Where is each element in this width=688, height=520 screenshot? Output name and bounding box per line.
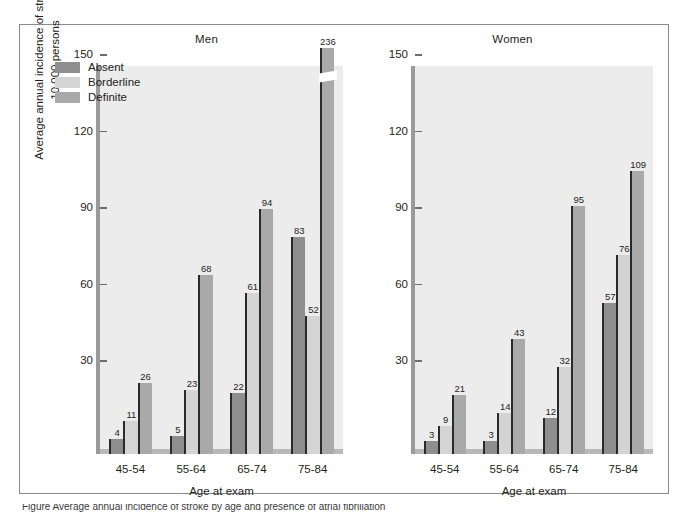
y-tick-60: 60 [80, 278, 100, 290]
panel-women: Women 306090120150 392131443123295577610… [355, 25, 670, 493]
figure-frame: Men Average annual incidence of stroke p… [19, 24, 669, 494]
bar-men-75-84-borderline: 52 [305, 316, 319, 454]
bar-men-65-74-borderline: 61 [245, 293, 259, 454]
bar-women-75-84-borderline: 76 [616, 255, 630, 454]
bar-value-label: 21 [454, 383, 465, 394]
x-axis-title-men: Age at exam [100, 485, 343, 497]
bar-value-label: 76 [619, 243, 630, 254]
bar-women-65-74-borderline: 32 [557, 367, 571, 454]
y-tick-label: 60 [80, 278, 93, 290]
y-tick-label: 120 [74, 125, 93, 137]
y-tick-150: 150 [389, 48, 415, 60]
panel-title-men: Men [20, 33, 355, 45]
y-tick-label: 90 [395, 201, 408, 213]
bar-value-label: 12 [545, 406, 556, 417]
y-tick-90: 90 [80, 201, 100, 213]
bar-value-label: 236 [320, 36, 336, 47]
bar-value-label: 83 [294, 225, 305, 236]
legend-item: Definite [55, 91, 140, 103]
y-tick-mark [415, 360, 422, 362]
figure-page: Men Average annual incidence of stroke p… [0, 0, 688, 520]
bar-women-65-74-absent: 12 [543, 418, 557, 454]
legend: AbsentBorderlineDefinite [55, 61, 140, 106]
legend-swatch-definite [55, 92, 80, 103]
bar-men-75-84-definite [320, 56, 334, 454]
x-group-label-45-54: 45-54 [430, 463, 459, 475]
y-tick-mark [100, 131, 107, 133]
x-group-label-55-64: 55-64 [490, 463, 519, 475]
bar-women-45-54-absent: 3 [424, 441, 438, 454]
bar-value-label: 5 [175, 424, 180, 435]
bar-women-65-74-definite: 95 [571, 206, 585, 454]
y-tick-mark [415, 284, 422, 286]
x-group-label-65-74: 65-74 [237, 463, 266, 475]
bar-value-label: 14 [500, 401, 511, 412]
bar-value-label: 109 [630, 159, 646, 170]
x-group-labels-men: 45-5455-6465-7475-84 [100, 454, 343, 484]
bar-women-45-54-borderline: 9 [438, 426, 452, 454]
panel-men: Men Average annual incidence of stroke p… [20, 25, 355, 493]
y-tick-mark [415, 54, 422, 56]
legend-swatch-absent [55, 62, 80, 73]
y-tick-30: 30 [80, 354, 100, 366]
x-group-label-45-54: 45-54 [116, 463, 145, 475]
y-tick-mark [100, 54, 107, 56]
bar-value-label: 94 [262, 197, 273, 208]
bar-value-label: 3 [489, 429, 494, 440]
bar-women-75-84-definite: 109 [630, 171, 644, 454]
bar-women-75-84-absent: 57 [602, 303, 616, 454]
x-group-label-75-84: 75-84 [609, 463, 638, 475]
bar-value-label: 68 [201, 263, 212, 274]
plot-area-men: 306090120150 41126523682261948352236 45-… [96, 66, 343, 454]
bar-men-45-54-definite: 26 [138, 383, 152, 454]
x-group-label-75-84: 75-84 [298, 463, 327, 475]
bar-value-label: 3 [429, 429, 434, 440]
bar-value-label: 4 [114, 427, 119, 438]
bar-value-label: 22 [233, 381, 244, 392]
bar-men-45-54-borderline: 11 [123, 421, 137, 454]
y-tick-120: 120 [74, 125, 100, 137]
bar-men-55-64-borderline: 23 [184, 390, 198, 454]
legend-label: Absent [88, 61, 124, 73]
legend-swatch-borderline [55, 77, 80, 88]
bar-value-label: 9 [443, 414, 448, 425]
y-tick-label: 30 [80, 354, 93, 366]
legend-label: Borderline [88, 76, 140, 88]
bar-men-55-64-absent: 5 [170, 436, 184, 454]
panel-title-women: Women [355, 33, 670, 45]
bar-men-75-84-absent: 83 [291, 237, 305, 454]
y-tick-120: 120 [389, 125, 415, 137]
figure-caption: Figure Average annual incidence of strok… [22, 504, 668, 518]
legend-item: Borderline [55, 76, 140, 88]
bar-women-45-54-definite: 21 [452, 395, 466, 454]
legend-label: Definite [88, 91, 127, 103]
bar-women-55-64-borderline: 14 [497, 413, 511, 454]
y-tick-mark [415, 131, 422, 133]
x-group-label-55-64: 55-64 [176, 463, 205, 475]
bar-value-label: 95 [573, 194, 584, 205]
y-tick-label: 90 [80, 201, 93, 213]
bar-value-label: 23 [187, 378, 198, 389]
figure-caption-text: Figure Average annual incidence of strok… [22, 504, 668, 512]
bar-value-label: 32 [559, 355, 570, 366]
y-tick-mark [100, 360, 107, 362]
plot-area-women: 306090120150 3921314431232955776109 45-5… [411, 66, 653, 454]
bar-value-label: 61 [248, 281, 259, 292]
bar-women-55-64-definite: 43 [511, 339, 525, 454]
axis-break-gap [319, 71, 337, 83]
y-tick-label: 60 [395, 278, 408, 290]
bar-value-label: 43 [514, 327, 525, 338]
bar-value-label: 52 [308, 304, 319, 315]
y-tick-150: 150 [74, 48, 100, 60]
bar-value-label: 26 [140, 371, 151, 382]
y-tick-label: 120 [389, 125, 408, 137]
y-tick-label: 150 [389, 48, 408, 60]
x-axis-title-women: Age at exam [415, 485, 653, 497]
bar-value-label: 57 [605, 291, 616, 302]
y-tick-mark [100, 284, 107, 286]
x-group-labels-women: 45-5455-6465-7475-84 [415, 454, 653, 484]
y-tick-mark [100, 207, 107, 209]
bar-men-65-74-absent: 22 [230, 393, 244, 454]
y-tick-90: 90 [395, 201, 415, 213]
bar-men-65-74-definite: 94 [259, 209, 273, 454]
